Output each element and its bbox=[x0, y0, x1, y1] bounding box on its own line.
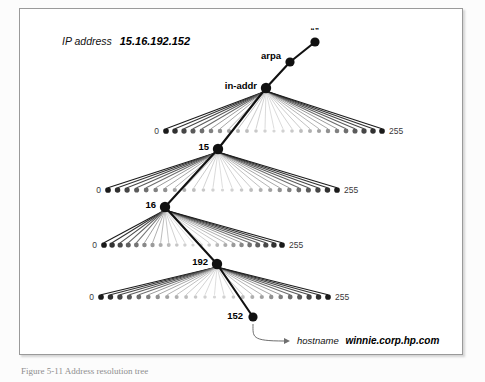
tree-node-192[interactable] bbox=[212, 259, 222, 269]
tree-node-in-addr[interactable] bbox=[261, 83, 271, 93]
tree-node-root[interactable] bbox=[310, 37, 319, 46]
svg-text:IP address 15.16.192.1: IP address 15.16.192.152 bbox=[62, 35, 190, 47]
callout-leader-line bbox=[253, 324, 284, 341]
fan-leaf-node bbox=[335, 129, 340, 134]
fan-leaf-node bbox=[108, 294, 113, 299]
tree-node-label-16: 16 bbox=[145, 199, 156, 210]
fan-leaf-node bbox=[317, 129, 321, 133]
callout-hostname-value: winnie.corp.hp.com bbox=[345, 335, 439, 346]
fan-leaf-node bbox=[272, 129, 275, 132]
fan-leaf-node bbox=[175, 295, 179, 299]
fan-leaf-node bbox=[167, 243, 171, 247]
fan-range-min-label: 0 bbox=[96, 185, 101, 195]
callout-arrowhead-icon bbox=[284, 338, 290, 344]
fan-range-min-label: 0 bbox=[89, 292, 94, 302]
fan-edge bbox=[265, 91, 266, 129]
tree-node-label-root: “” bbox=[311, 26, 320, 35]
fan-leaf-node bbox=[297, 294, 302, 299]
fan-leaf-node bbox=[334, 187, 340, 193]
fan-leaf-node bbox=[209, 129, 214, 134]
fan-edge bbox=[218, 152, 337, 188]
fan-leaf-node bbox=[325, 187, 330, 192]
fan-leaf-node bbox=[281, 129, 284, 132]
fan-leaf-node bbox=[259, 188, 263, 192]
fan-leaf-node bbox=[156, 295, 160, 299]
fan-leaf-node bbox=[296, 188, 301, 193]
fan-leaf-node bbox=[306, 294, 311, 299]
fan-leaf-node bbox=[134, 187, 139, 192]
fan-leaf-node bbox=[231, 243, 235, 247]
tree-node-15[interactable] bbox=[213, 144, 223, 154]
tree-node-label-in-addr: in-addr bbox=[225, 80, 257, 91]
tree-node-16[interactable] bbox=[160, 202, 170, 212]
fan-leaf-node bbox=[181, 128, 186, 133]
ip-address-annotation: IP address 15.16.192.152 bbox=[62, 35, 190, 47]
fan-leaf-node bbox=[183, 243, 186, 246]
fan-leaf-node bbox=[194, 295, 198, 299]
figure-caption: Figure 5-11 Address resolution tree bbox=[21, 366, 461, 380]
fan-range-min-label: 0 bbox=[154, 126, 159, 136]
fan-leaf-node bbox=[101, 242, 107, 248]
tree-node-label-192: 192 bbox=[192, 256, 208, 267]
fan-edge bbox=[139, 267, 217, 295]
fan-leaf-node bbox=[153, 188, 158, 193]
fan-leaf-node bbox=[278, 295, 283, 300]
fan-leaf-node bbox=[144, 188, 149, 193]
fan-leaf-node bbox=[271, 242, 276, 247]
callout-prefix: hostname bbox=[297, 335, 339, 346]
fan-leaf-node bbox=[263, 242, 268, 247]
fan-leaf-node bbox=[211, 188, 214, 191]
fan-leaf-node bbox=[136, 295, 141, 300]
callout-group bbox=[253, 324, 290, 344]
figure-container: 0255025502550255 “”arpain-addr1516192152… bbox=[0, 0, 485, 382]
fan-edge bbox=[112, 210, 165, 243]
spine-edge bbox=[266, 62, 290, 88]
fan-range-max-label: 255 bbox=[289, 240, 303, 250]
hostname-callout-label: hostname winnie.corp.hp.com bbox=[297, 335, 439, 346]
fan-leaf-node bbox=[230, 188, 233, 191]
fan-leaf-node bbox=[245, 129, 249, 133]
fan-level-in-addr: 0255 bbox=[154, 91, 403, 136]
fan-leaf-node bbox=[202, 188, 206, 192]
tree-node-152[interactable] bbox=[248, 312, 257, 321]
spine-edge bbox=[290, 42, 315, 62]
fan-leaf-node bbox=[308, 129, 312, 133]
fan-leaf-node bbox=[191, 243, 194, 246]
tree-node-arpa[interactable] bbox=[285, 57, 294, 66]
fan-leaf-node bbox=[223, 243, 227, 247]
fan-leaf-node bbox=[213, 295, 216, 298]
fan-leaf-node bbox=[288, 295, 293, 300]
fan-leaf-node bbox=[269, 295, 273, 299]
tree-node-label-arpa: arpa bbox=[261, 50, 282, 61]
fan-leaf-node bbox=[325, 294, 331, 300]
fan-leaf-node bbox=[126, 242, 131, 247]
fan-leaf-node bbox=[134, 243, 139, 248]
tree-node-label-152: 152 bbox=[227, 310, 243, 321]
fan-edge bbox=[136, 210, 165, 243]
fan-edge bbox=[266, 91, 337, 129]
fan-leaf-node bbox=[172, 128, 177, 133]
fan-leaf-node bbox=[146, 295, 151, 300]
fan-edge bbox=[193, 91, 266, 129]
fan-leaf-node bbox=[299, 129, 303, 133]
fan-leaf-node bbox=[203, 295, 206, 298]
fan-leaf-node bbox=[190, 128, 195, 133]
fan-leaf-node bbox=[379, 128, 385, 134]
fan-leaf-node bbox=[215, 243, 219, 247]
fan-leaf-node bbox=[361, 128, 366, 133]
fan-leaf-node bbox=[124, 187, 129, 192]
fan-leaf-node bbox=[316, 294, 321, 299]
fan-leaf-node bbox=[247, 243, 252, 248]
fan-leaf-node bbox=[142, 243, 147, 248]
fan-leaf-node bbox=[344, 129, 349, 134]
fan-leaf-node bbox=[222, 295, 225, 298]
fan-edge bbox=[217, 267, 328, 295]
fan-leaf-node bbox=[150, 243, 154, 247]
fan-leaf-node bbox=[159, 243, 163, 247]
fan-leaf-node bbox=[105, 187, 111, 193]
tree-node-label-15: 15 bbox=[198, 141, 209, 152]
dns-tree-diagram: 0255025502550255 “”arpain-addr1516192152… bbox=[0, 0, 485, 382]
ip-annotation-value: 15.16.192.152 bbox=[120, 35, 190, 47]
fan-leaf-node bbox=[115, 187, 120, 192]
fan-groups: 0255025502550255 bbox=[89, 91, 403, 302]
